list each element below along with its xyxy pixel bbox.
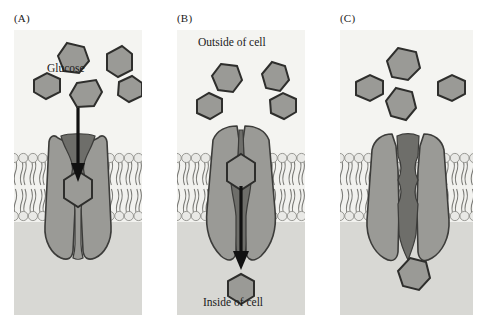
glucose-molecule-outside — [197, 93, 222, 119]
panel-c — [340, 30, 473, 315]
glucose-molecule-outside — [107, 46, 132, 77]
glucose-molecule-outside — [356, 75, 383, 101]
glucose-molecule-outside — [386, 88, 416, 120]
glucose-molecule-outside — [387, 48, 420, 80]
transporter-protein-c — [367, 134, 449, 261]
glucose-label: Glucose — [47, 62, 85, 74]
glucose-molecule-outside — [118, 76, 142, 102]
panel-b — [177, 30, 305, 315]
transporter-art-c — [340, 30, 473, 315]
panel-b-label: (B) — [177, 12, 192, 24]
glucose-in-channel-b — [227, 154, 255, 190]
glucose-molecule-outside — [262, 62, 289, 91]
transporter-art-b — [177, 30, 305, 315]
glucose-molecule-inside — [398, 258, 430, 290]
glucose-molecule-outside — [70, 80, 102, 107]
outside-of-cell-label: Outside of cell — [198, 36, 266, 48]
figure-glucose-transporter: (A) — [0, 0, 488, 325]
panel-a-label: (A) — [14, 12, 30, 24]
panel-c-label: (C) — [340, 12, 355, 24]
glucose-molecule-outside — [270, 93, 296, 119]
glucose-molecule-outside — [438, 75, 465, 101]
inside-of-cell-label: Inside of cell — [203, 296, 263, 308]
glucose-molecule-outside — [34, 73, 60, 99]
glucose-molecule-outside — [212, 64, 242, 92]
